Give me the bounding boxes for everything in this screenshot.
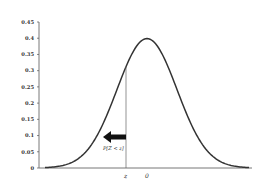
probability-annotation: P[Z < z]: [102, 145, 124, 151]
y-tick-label: 0.2: [25, 100, 34, 106]
y-tick-label: 0.1: [25, 132, 34, 138]
y-tick-label: 0: [30, 165, 34, 171]
y-tick-label: 0.4: [25, 35, 34, 41]
normal-curve: [45, 39, 249, 168]
y-tick-label: 0.3: [25, 67, 34, 73]
x-tick-zero: 0: [145, 172, 149, 179]
y-tick-label: 0.15: [21, 116, 34, 122]
y-tick-label: 0.45: [21, 19, 34, 25]
y-tick-label: 0.35: [21, 51, 34, 57]
normal-distribution-chart: 00.050.10.150.20.250.30.350.40.45 P[Z < …: [0, 0, 265, 188]
x-tick-z: z: [123, 172, 128, 179]
left-arrow-icon: [103, 131, 126, 143]
y-axis-ticks: 00.050.10.150.20.250.30.350.40.45: [21, 19, 39, 171]
y-tick-label: 0.05: [21, 149, 34, 155]
y-tick-label: 0.25: [21, 84, 34, 90]
